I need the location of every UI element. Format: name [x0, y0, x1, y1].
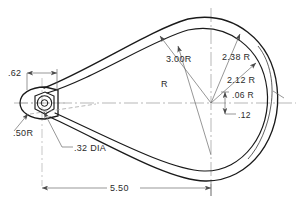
- label-50R: .50R: [13, 128, 33, 138]
- leader-32DIA-group: [44, 112, 73, 147]
- label-5-50-top: 5.50: [110, 183, 129, 193]
- label-06R: .06 R: [232, 90, 254, 100]
- label-12: .12: [238, 110, 251, 120]
- label-32-DIA: .32 DIA: [74, 143, 106, 153]
- leader-3-00R: [160, 36, 211, 103]
- thimble-groove-line: [248, 46, 272, 159]
- label-R: R: [161, 79, 168, 89]
- label-2-12R: 2.12 R: [227, 75, 256, 85]
- drawing-sheet: 3.00R R 2.38 R 2.12 R .06 R .12 .62 .50R…: [0, 0, 300, 212]
- label-2-38R: 2.38 R: [222, 52, 251, 62]
- label-3-00R: 3.00R: [166, 54, 192, 64]
- leader-06R: [273, 91, 284, 98]
- label-62: .62: [8, 68, 21, 78]
- groove-path: [248, 46, 272, 159]
